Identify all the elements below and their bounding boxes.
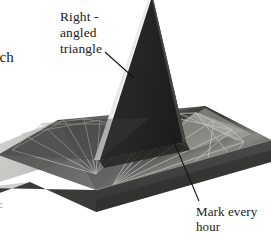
cropped-body-text: he a each e <box>0 14 14 85</box>
gnomon-callout-label: Right - angled triangle <box>60 9 102 57</box>
cropped-edge-glyph: c <box>0 198 3 210</box>
hour-marks-callout-label: Mark every hour <box>196 204 257 235</box>
figure-canvas: he a each e Right - angled triangle Mark… <box>0 0 271 240</box>
